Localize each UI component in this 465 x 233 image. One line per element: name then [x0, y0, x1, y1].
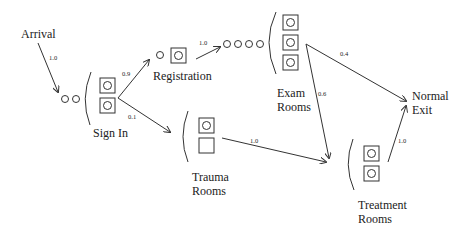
edge-signin-registration — [118, 60, 149, 98]
edge-treatment-exit — [388, 106, 406, 162]
arrival-label: Arrival — [21, 27, 56, 41]
exam-servers — [283, 15, 298, 70]
prob-trauma-treatment: 1.0 — [250, 137, 258, 144]
prob-treatment-exit: 1.0 — [398, 137, 406, 144]
registration-queue — [157, 52, 164, 59]
edge-arrival-signin — [38, 43, 58, 92]
prob-exam-exit: 0.4 — [340, 50, 349, 57]
signin-servers — [100, 78, 115, 113]
registration-server — [171, 48, 186, 63]
exam-label-line1: Exam — [277, 86, 306, 100]
exit-label-line1: Normal — [412, 89, 449, 103]
treatment-label-line2: Rooms — [358, 212, 392, 226]
treatment-label-line1: Treatment — [358, 198, 408, 212]
prob-signin-registration: 0.9 — [122, 70, 130, 77]
trauma-servers — [199, 118, 214, 153]
exam-bracket — [269, 12, 276, 74]
treatment-bracket — [348, 139, 354, 190]
trauma-label-line1: Trauma — [192, 170, 230, 184]
trauma-label-line2: Rooms — [192, 184, 226, 198]
treatment-servers — [364, 146, 379, 181]
edge-trauma-treatment — [222, 138, 326, 162]
registration-label: Registration — [153, 69, 212, 83]
prob-exam-treatment: 0.6 — [318, 90, 327, 97]
exam-queue — [224, 41, 264, 48]
prob-registration-exam: 1.0 — [199, 39, 207, 46]
signin-bracket — [85, 72, 91, 125]
prob-signin-trauma: 0.1 — [128, 113, 136, 120]
prob-arrival-signin: 1.0 — [49, 54, 57, 61]
edge-registration-exam — [196, 47, 220, 59]
flow-diagram: Arrival 1.0 Sign In 0.9 0.1 Registration… — [0, 0, 465, 233]
exam-label-line2: Rooms — [277, 100, 311, 114]
trauma-bracket — [183, 111, 188, 162]
signin-queue — [62, 96, 80, 103]
signin-label: Sign In — [93, 126, 128, 140]
exit-label-line2: Exit — [412, 103, 433, 117]
